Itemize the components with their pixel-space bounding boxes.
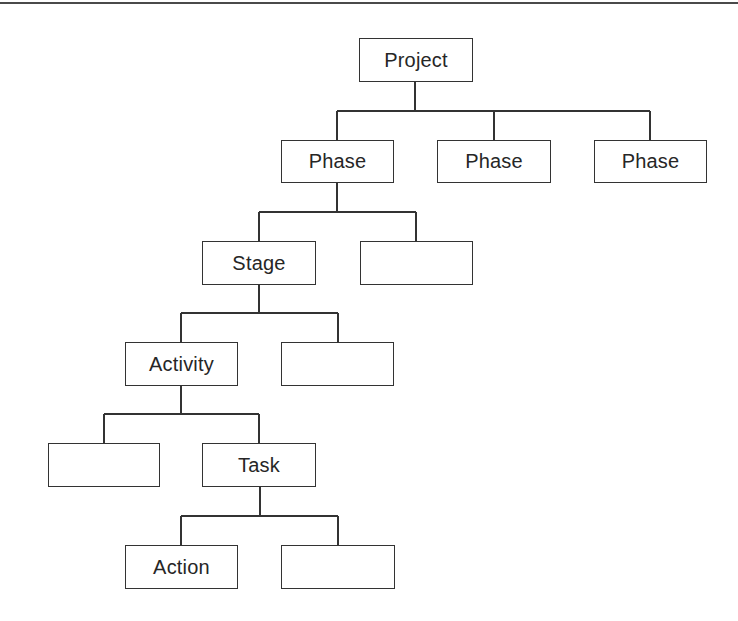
node-activity-sibling-empty [281, 342, 394, 386]
node-stage: Stage [202, 241, 316, 285]
connector-task-actions [181, 487, 338, 545]
node-action: Action [125, 545, 238, 589]
tree-connectors [0, 0, 738, 621]
node-phase-3: Phase [594, 140, 707, 183]
node-activity: Activity [125, 342, 238, 386]
node-task-sibling-empty [48, 443, 160, 487]
node-project: Project [359, 38, 473, 82]
connector-activity-tasks [104, 386, 259, 443]
node-action-sibling-empty [281, 545, 395, 589]
node-phase-1: Phase [281, 140, 394, 183]
connector-project-phases [337, 82, 650, 140]
node-task: Task [202, 443, 316, 487]
node-phase-2: Phase [437, 140, 551, 183]
connector-stage-activities [181, 285, 338, 342]
connector-phase-stages [259, 183, 416, 241]
node-stage-sibling-empty [360, 241, 473, 285]
